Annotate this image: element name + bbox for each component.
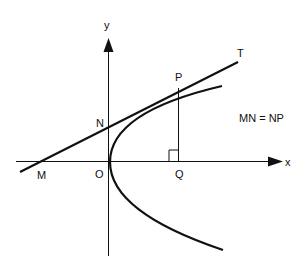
parabola-tangent-diagram: y x N O M Q P T MN = NP [0, 0, 306, 267]
equality-annotation: MN = NP [239, 112, 284, 124]
point-label-o: O [95, 168, 104, 180]
x-axis-label: x [285, 156, 291, 168]
right-angle-marker [169, 150, 179, 162]
parabola-curve [110, 86, 223, 250]
tangent-line [20, 62, 238, 172]
point-label-p: P [175, 71, 182, 83]
point-label-n: N [96, 117, 104, 129]
x-axis [16, 157, 283, 167]
point-label-q: Q [175, 168, 184, 180]
y-axis-label: y [104, 19, 110, 31]
point-label-m: M [37, 169, 46, 181]
point-label-t: T [237, 47, 244, 59]
y-axis-arrow-icon [104, 38, 114, 52]
x-axis-arrow-icon [268, 157, 283, 167]
